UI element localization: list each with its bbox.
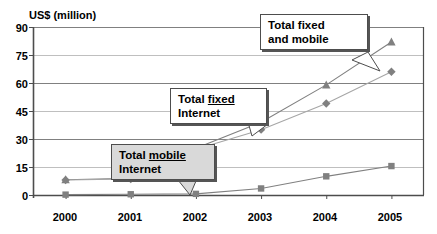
data-point-2004 — [322, 99, 330, 107]
annotation-line1: Total fixed — [268, 19, 325, 31]
annotation-line2: and mobile — [268, 32, 361, 46]
data-point-2005 — [387, 38, 395, 46]
annotation-line2: Internet — [119, 162, 208, 176]
annotation-prefix: Total — [178, 93, 208, 105]
annotation-line1: Total mobile — [119, 149, 186, 161]
chart-container: US$ (million) 90 75 60 45 30 15 0 2000 2… — [0, 0, 437, 234]
data-point-2003 — [258, 185, 264, 191]
data-point-2005 — [387, 68, 395, 76]
leader-total-fixed-and-mobile — [352, 52, 380, 71]
data-point-2002 — [193, 191, 199, 197]
annotation-prefix: Total — [119, 149, 149, 161]
annotation-line1: Total fixed — [178, 93, 235, 105]
annotation-total-mobile-internet: Total mobile Internet — [111, 144, 215, 180]
annotation-total-fixed-internet: Total fixed Internet — [170, 88, 267, 124]
annotation-underlined-word: fixed — [208, 93, 235, 105]
data-point-2001 — [128, 191, 134, 197]
leader-total-fixed-internet — [248, 122, 268, 136]
data-point-2005 — [388, 163, 394, 169]
annotation-total-fixed-and-mobile: Total fixed and mobile — [260, 14, 368, 50]
annotation-underlined-word: mobile — [149, 149, 186, 161]
data-point-2004 — [322, 80, 330, 88]
data-point-2004 — [323, 173, 329, 179]
annotation-line2: Internet — [178, 106, 260, 120]
data-point-2000 — [62, 191, 68, 197]
